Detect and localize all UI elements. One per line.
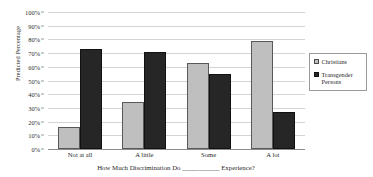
x-axis-tick-label: Not at all <box>48 151 112 158</box>
bar-groups <box>48 12 305 149</box>
bar[interactable] <box>80 49 102 149</box>
y-axis-tick-mark <box>41 25 44 26</box>
y-axis-tick-mark <box>41 80 44 81</box>
bar[interactable] <box>251 41 273 149</box>
legend-label: Christians <box>322 58 348 66</box>
y-axis-tick-label: 40% <box>28 91 40 98</box>
bar[interactable] <box>122 102 144 149</box>
legend-item[interactable]: Christians <box>314 58 363 66</box>
legend-label: Transgender Persons <box>322 71 364 86</box>
y-axis-tick-mark <box>41 149 44 150</box>
y-axis-tick-label: 70% <box>28 50 40 57</box>
legend-swatch-icon <box>314 72 319 77</box>
bar-group <box>177 12 241 149</box>
x-axis-tick-labels: Not at allA littleSomeA lot <box>48 151 305 158</box>
x-axis-tick-label: A lot <box>241 151 305 158</box>
y-axis-tick-label: 100% <box>25 9 40 16</box>
legend-swatch-icon <box>314 59 319 64</box>
y-axis-tick-label: 80% <box>28 36 40 43</box>
bar[interactable] <box>187 63 209 149</box>
y-axis-tick-mark <box>41 107 44 108</box>
y-axis-tick-mark <box>41 53 44 54</box>
bar-group <box>241 12 305 149</box>
y-axis-tick-label: 60% <box>28 63 40 70</box>
bar[interactable] <box>144 52 166 149</box>
y-axis-tick-label: 90% <box>28 22 40 29</box>
bar[interactable] <box>58 127 80 149</box>
bar[interactable] <box>273 112 295 149</box>
y-axis-tick-label: 0% <box>31 146 40 153</box>
x-axis-title: How Much Discrimination Do ___________ E… <box>40 164 312 171</box>
y-axis-tick-label: 50% <box>28 77 40 84</box>
y-axis-tick-mark <box>41 39 44 40</box>
y-axis-tick-mark <box>41 135 44 136</box>
y-axis-tick-mark <box>41 121 44 122</box>
bar-pair <box>241 12 305 149</box>
x-axis-tick-label: A little <box>112 151 176 158</box>
plot-area <box>48 12 305 149</box>
bar[interactable] <box>209 74 231 149</box>
chart-legend: ChristiansTransgender Persons <box>309 53 367 91</box>
gridline <box>48 149 305 150</box>
y-axis-tick-mark <box>41 66 44 67</box>
y-axis-tick-label: 30% <box>28 104 40 111</box>
bar-pair <box>177 12 241 149</box>
x-axis-tick-label: Some <box>177 151 241 158</box>
bar-group <box>48 12 112 149</box>
legend-item[interactable]: Transgender Persons <box>314 71 363 86</box>
y-axis-tick-mark <box>41 12 44 13</box>
y-axis-tick-mark <box>41 94 44 95</box>
bar-group <box>112 12 176 149</box>
bar-pair <box>48 12 112 149</box>
y-axis-tick-labels: 0%10%20%30%40%50%60%70%80%90%100% <box>0 12 44 149</box>
bar-pair <box>112 12 176 149</box>
y-axis-tick-label: 20% <box>28 118 40 125</box>
bar-chart: Predicted Percentage 0%10%20%30%40%50%60… <box>0 0 373 177</box>
y-axis-tick-label: 10% <box>28 132 40 139</box>
